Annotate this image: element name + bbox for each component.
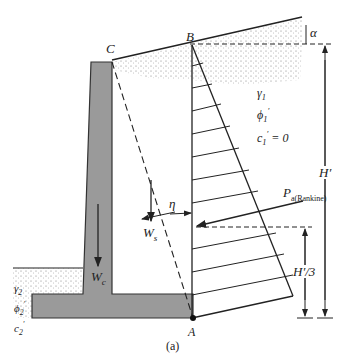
label-active-force: Pa(Rankine) <box>283 186 327 203</box>
dashed-line-c-to-a <box>112 62 193 318</box>
retaining-wall-diagram <box>0 0 347 362</box>
eta-dimension-arrow-right <box>170 213 191 214</box>
pressure-diagram-base <box>192 296 293 318</box>
label-point-b: B <box>186 30 194 43</box>
active-force-arrow <box>197 201 303 226</box>
label-point-a: A <box>188 326 195 338</box>
label-eta: η <box>169 197 175 210</box>
eta-dimension-arrow <box>142 212 175 219</box>
label-soil-weight: Ws <box>143 226 157 243</box>
foundation-soil-properties: γ2 ϕ2′ c2′ <box>14 282 25 339</box>
label-point-c: C <box>106 42 115 55</box>
label-height: H′ <box>319 166 331 179</box>
point-a-marker <box>190 315 196 321</box>
label-alpha: α <box>310 26 317 39</box>
figure-caption: (a) <box>166 340 179 352</box>
backfill-soil <box>112 18 302 85</box>
label-wall-weight: Wc <box>91 270 106 287</box>
label-third-height: H′/3 <box>293 265 315 278</box>
backfill-soil-properties: γ1 ϕ1′ c1′ = 0 <box>257 86 288 150</box>
